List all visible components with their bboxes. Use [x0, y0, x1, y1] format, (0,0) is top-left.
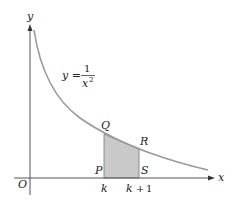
y-axis-label: y	[26, 10, 34, 23]
point-label-p: P	[94, 164, 103, 177]
tick-label-k-plus-1-num: 1	[146, 183, 152, 194]
equation-numerator: 1	[84, 63, 90, 74]
equation-lhs: y =	[61, 69, 81, 82]
equation-denominator: x	[82, 77, 89, 90]
diagram-canvas: y x O y = 1 x 2 Q R P S k k + 1	[0, 0, 233, 201]
equation-exponent: 2	[89, 76, 93, 84]
x-axis-label: x	[218, 171, 225, 184]
point-label-q: Q	[101, 119, 110, 132]
x-axis-arrow-icon	[208, 176, 215, 181]
origin-label: O	[18, 178, 27, 191]
tick-label-k-plus-1-var: k	[126, 182, 133, 195]
point-label-r: R	[139, 135, 148, 148]
y-axis-arrow-icon	[28, 24, 33, 31]
point-label-s: S	[141, 164, 149, 177]
tick-label-k: k	[101, 182, 108, 195]
tick-label-k-plus-1-op: +	[136, 183, 144, 194]
